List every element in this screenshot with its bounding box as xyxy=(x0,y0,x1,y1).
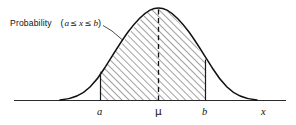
callout-second-operator: ≤ xyxy=(85,18,92,28)
shaded-probability-region xyxy=(99,6,206,101)
callout-lower-bound-var: a xyxy=(65,18,70,28)
tick-label-a: a xyxy=(97,106,102,117)
tick-label-x: x xyxy=(260,106,266,117)
tick-label-mu: μ xyxy=(155,105,162,117)
tick-label-b: b xyxy=(202,106,207,117)
callout-open-paren: ( xyxy=(61,18,64,28)
axis-tick-labels: a μ b x xyxy=(97,105,266,117)
figure-canvas: Probability ( a ≤ x ≤ b ) a μ b x xyxy=(0,0,296,125)
hatch-fill xyxy=(99,6,206,101)
callout-leader-line xyxy=(103,26,122,40)
callout-first-operator: ≤ xyxy=(70,18,77,28)
probability-callout-label: Probability ( a ≤ x ≤ b ) xyxy=(10,18,101,28)
callout-random-var: x xyxy=(78,18,84,28)
callout-prefix-text: Probability xyxy=(10,18,52,28)
normal-distribution-figure: Probability ( a ≤ x ≤ b ) a μ b x xyxy=(0,0,296,125)
callout-close-paren: ) xyxy=(98,18,101,28)
